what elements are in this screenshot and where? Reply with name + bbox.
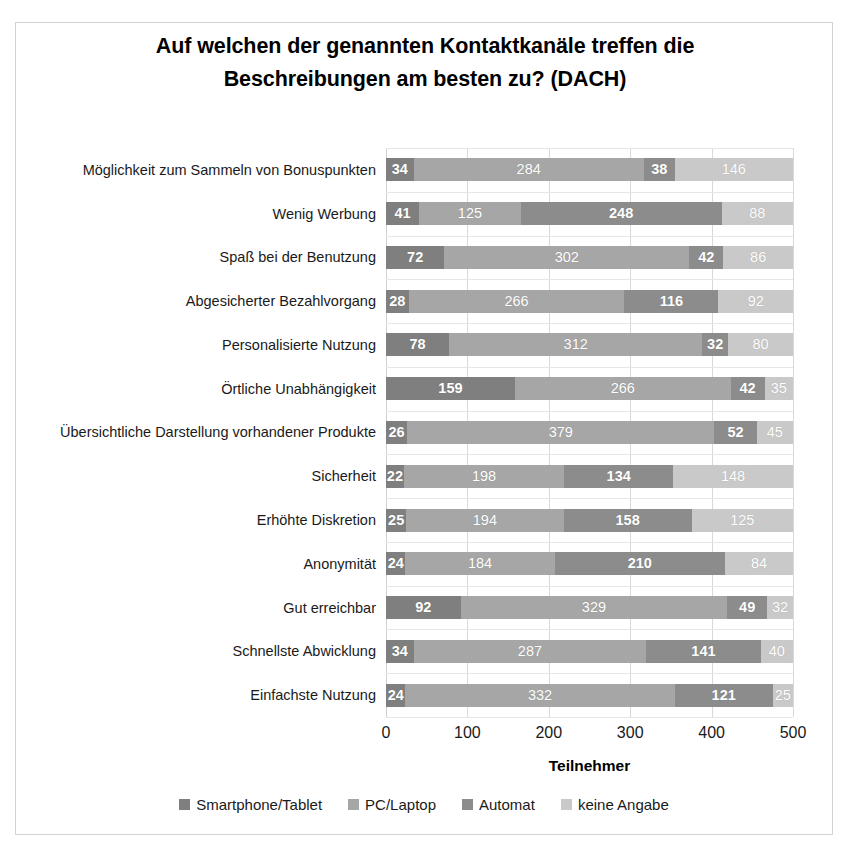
gridline-500 [793,148,794,717]
bar-segment[interactable]: 24 [386,684,405,707]
chart-title: Auf welchen der genannten Kontaktkanäle … [60,30,790,96]
bar-value-label: 332 [528,688,552,703]
x-axis-title: Teilnehmer [386,757,793,775]
bar-value-label: 32 [707,337,723,352]
bar-value-label: 72 [407,250,423,265]
bar-segment[interactable]: 329 [461,596,728,619]
legend-label: keine Angabe [578,796,669,813]
bar-segment[interactable]: 248 [521,202,722,225]
bar-segment[interactable]: 84 [725,552,793,575]
bar-segment[interactable]: 32 [702,333,728,356]
bar-segment[interactable]: 42 [731,377,765,400]
bar-segment[interactable]: 194 [406,509,563,532]
bar-row[interactable]: 783123280 [386,333,793,356]
bar-row[interactable]: 3428714140 [386,640,793,663]
bar-segment[interactable]: 52 [714,421,756,444]
bar-segment[interactable]: 24 [386,552,405,575]
bar-segment[interactable]: 284 [414,158,644,181]
bar-value-label: 141 [691,644,715,659]
bar-segment[interactable]: 312 [449,333,702,356]
bar-value-label: 78 [410,337,426,352]
bar-segment[interactable]: 287 [414,640,647,663]
bar-segment[interactable]: 32 [767,596,793,619]
bar-segment[interactable]: 86 [723,246,793,269]
category-label: Personalisierte Nutzung [36,338,376,353]
bar-segment[interactable]: 38 [644,158,675,181]
bar-value-label: 24 [388,688,404,703]
legend-item[interactable]: Smartphone/Tablet [179,796,322,813]
bar-segment[interactable]: 42 [689,246,723,269]
bar-segment[interactable]: 210 [555,552,725,575]
bar-segment[interactable]: 35 [765,377,793,400]
bar-segment[interactable]: 121 [675,684,773,707]
bar-segment[interactable]: 141 [646,640,760,663]
legend-item[interactable]: PC/Laptop [348,796,436,813]
category-label: Anonymität [36,557,376,572]
bar-value-label: 116 [660,294,683,309]
bar-segment[interactable]: 158 [564,509,692,532]
category-label: Sicherheit [36,469,376,484]
bar-segment[interactable]: 22 [386,465,404,488]
legend-item[interactable]: Automat [462,796,535,813]
bar-segment[interactable]: 92 [386,596,461,619]
bar-segment[interactable]: 92 [718,290,793,313]
bar-segment[interactable]: 184 [405,552,554,575]
bar-segment[interactable]: 88 [722,202,793,225]
bar-segment[interactable]: 379 [407,421,714,444]
bar-row[interactable]: 263795245 [386,421,793,444]
bar-value-label: 88 [749,206,765,221]
bar-value-label: 42 [740,381,756,396]
bar-row[interactable]: 2418421084 [386,552,793,575]
category-separator [386,673,793,674]
chart-title-line-1: Auf welchen der genannten Kontaktkanäle … [60,30,790,63]
bar-segment[interactable]: 25 [773,684,793,707]
bar-value-label: 379 [549,425,573,440]
bar-value-label: 35 [771,381,787,396]
legend-item[interactable]: keine Angabe [561,796,669,813]
bar-row[interactable]: 4112524888 [386,202,793,225]
bar-segment[interactable]: 302 [444,246,689,269]
bar-segment[interactable]: 28 [386,290,409,313]
bar-segment[interactable]: 125 [419,202,520,225]
bar-row[interactable]: 923294932 [386,596,793,619]
bar-segment[interactable]: 125 [692,509,793,532]
bar-row[interactable]: 723024286 [386,246,793,269]
bar-segment[interactable]: 25 [386,509,406,532]
bar-segment[interactable]: 159 [386,377,515,400]
bar-segment[interactable]: 266 [409,290,625,313]
bar-segment[interactable]: 40 [761,640,793,663]
x-tick-label: 500 [780,724,807,742]
bar-value-label: 125 [458,206,482,221]
bar-segment[interactable]: 72 [386,246,444,269]
bar-segment[interactable]: 116 [624,290,718,313]
bar-segment[interactable]: 198 [404,465,565,488]
category-label: Spaß bei der Benutzung [36,250,376,265]
bar-value-label: 121 [712,688,736,703]
bar-segment[interactable]: 45 [757,421,793,444]
bar-segment[interactable]: 146 [675,158,793,181]
bar-row[interactable]: 25194158125 [386,509,793,532]
category-separator [386,192,793,193]
bar-segment[interactable]: 49 [727,596,767,619]
bar-segment[interactable]: 41 [386,202,419,225]
bar-row[interactable]: 3428438146 [386,158,793,181]
bar-value-label: 146 [722,162,746,177]
bar-value-label: 148 [721,469,745,484]
bar-value-label: 198 [472,469,496,484]
bar-row[interactable]: 2826611692 [386,290,793,313]
bar-segment[interactable]: 34 [386,640,414,663]
bar-row[interactable]: 2433212125 [386,684,793,707]
bar-segment[interactable]: 34 [386,158,414,181]
bar-row[interactable]: 22198134148 [386,465,793,488]
chart-legend: Smartphone/TabletPC/LaptopAutomatkeine A… [15,796,833,813]
bar-segment[interactable]: 148 [673,465,793,488]
bar-segment[interactable]: 266 [515,377,731,400]
bar-row[interactable]: 1592664235 [386,377,793,400]
bar-segment[interactable]: 80 [728,333,793,356]
bar-segment[interactable]: 332 [405,684,674,707]
bar-segment[interactable]: 78 [386,333,449,356]
bar-value-label: 159 [438,381,462,396]
bar-value-label: 125 [730,513,754,528]
bar-segment[interactable]: 134 [564,465,673,488]
bar-segment[interactable]: 26 [386,421,407,444]
